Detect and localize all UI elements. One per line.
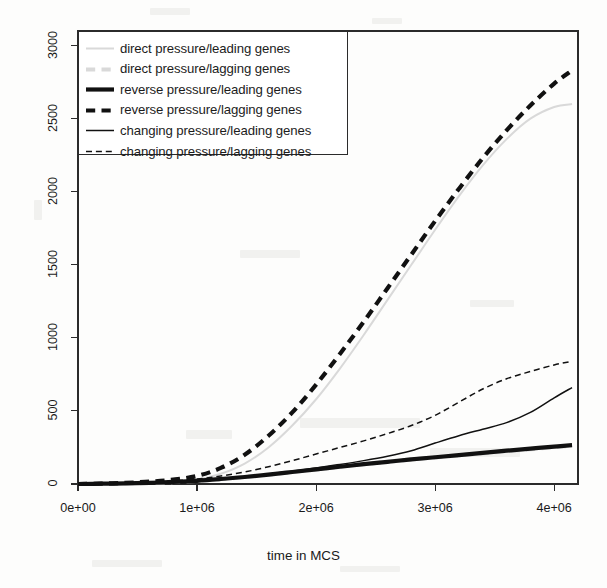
x-axis-tick-label: 4e+06 (514, 501, 594, 515)
legend-line-sample-icon (85, 120, 115, 141)
legend-item: direct pressure/leading genes (79, 38, 347, 59)
legend-item: changing pressure/lagging genes (79, 141, 347, 162)
chart-figure: 050010001500200025003000 0e+001e+062e+06… (0, 0, 607, 588)
y-axis-tick-label: 1000 (46, 310, 60, 364)
legend-item-label: reverse pressure/lagging genes (120, 103, 302, 116)
legend-item: changing pressure/leading genes (79, 120, 347, 141)
y-axis-tick-label: 3000 (46, 18, 60, 72)
legend-item-label: changing pressure/leading genes (120, 124, 311, 137)
legend-line-sample-icon (85, 79, 115, 100)
legend-line-sample-icon (85, 59, 115, 80)
legend-item-label: direct pressure/leading genes (120, 42, 290, 55)
x-axis-tick-label: 3e+06 (395, 501, 475, 515)
legend-item-label: reverse pressure/leading genes (120, 83, 302, 96)
y-axis-tick-label: 2500 (46, 91, 60, 145)
legend-item: direct pressure/lagging genes (79, 59, 347, 80)
legend-item-label: direct pressure/lagging genes (120, 62, 290, 75)
y-axis-tick-label: 1500 (46, 237, 60, 291)
legend-line-sample-icon (85, 38, 115, 59)
legend-item: reverse pressure/lagging genes (79, 100, 347, 121)
legend-line-sample-icon (85, 100, 115, 121)
legend-item: reverse pressure/leading genes (79, 79, 347, 100)
x-axis-title: time in MCS (0, 548, 607, 563)
data-series-line (78, 361, 572, 484)
x-axis-tick-label: 1e+06 (157, 501, 237, 515)
chart-legend: direct pressure/leading genesdirect pres… (78, 31, 348, 155)
legend-item-label: changing pressure/lagging genes (120, 145, 311, 158)
y-axis-tick-label: 2000 (46, 164, 60, 218)
x-axis-tick-label: 2e+06 (276, 501, 356, 515)
x-axis-tick-label: 0e+00 (38, 501, 118, 515)
y-axis-tick-label: 500 (46, 383, 60, 437)
legend-line-sample-icon (85, 141, 115, 162)
